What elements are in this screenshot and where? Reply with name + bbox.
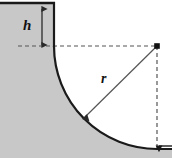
radius-dimension [85, 43, 160, 117]
radius-label: r [101, 72, 106, 86]
arc-center-marker [154, 43, 160, 49]
height-label: h [23, 18, 31, 33]
geometry-figure: h r [0, 0, 172, 158]
radius-dimension-arrow [85, 47, 156, 117]
